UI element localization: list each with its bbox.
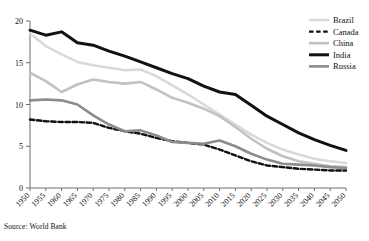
series-lines bbox=[30, 30, 346, 170]
legend-label-brazil: Brazil bbox=[333, 15, 354, 25]
legend-label-russia: Russia bbox=[333, 61, 356, 71]
x-tick-label: 2045 bbox=[314, 191, 332, 209]
legend-label-canada: Canada bbox=[333, 27, 359, 37]
source-note: Source: World Bank bbox=[4, 222, 67, 231]
legend-label-india: India bbox=[333, 50, 351, 60]
y-tick-label: 10 bbox=[15, 101, 23, 110]
chart-legend: BrazilCanadaChinaIndiaRussia bbox=[309, 15, 359, 71]
y-tick-label: 0 bbox=[19, 184, 23, 193]
x-tick-label: 1975 bbox=[93, 191, 111, 209]
x-tick-label: 2040 bbox=[298, 191, 316, 209]
x-tick-label: 2035 bbox=[282, 191, 300, 209]
y-axis: 05101520 bbox=[15, 17, 30, 193]
x-tick-label: 2030 bbox=[267, 191, 285, 209]
x-tick-label: 2015 bbox=[219, 191, 237, 209]
x-tick-label: 2050 bbox=[330, 191, 348, 209]
x-tick-label: 1950 bbox=[14, 191, 32, 209]
x-tick-label: 2000 bbox=[172, 191, 190, 209]
x-tick-label: 2025 bbox=[251, 191, 269, 209]
x-tick-label: 1970 bbox=[77, 191, 95, 209]
line-chart: 05101520 1950195519601965197019751980198… bbox=[0, 0, 369, 241]
x-tick-label: 1955 bbox=[30, 191, 48, 209]
legend-label-china: China bbox=[333, 38, 354, 48]
y-tick-label: 20 bbox=[15, 17, 23, 26]
y-tick-label: 5 bbox=[19, 142, 23, 151]
x-tick-label: 2010 bbox=[203, 191, 221, 209]
x-tick-label: 1965 bbox=[61, 191, 79, 209]
chart-figure: 05101520 1950195519601965197019751980198… bbox=[0, 0, 369, 241]
x-tick-label: 2020 bbox=[235, 191, 253, 209]
x-tick-label: 1980 bbox=[109, 191, 127, 209]
series-line-canada bbox=[30, 120, 346, 171]
x-tick-label: 1995 bbox=[156, 191, 174, 209]
x-tick-label: 1985 bbox=[124, 191, 142, 209]
x-tick-label: 1990 bbox=[140, 191, 158, 209]
series-line-china bbox=[30, 73, 346, 167]
x-axis: 1950195519601965197019751980198519901995… bbox=[14, 188, 348, 209]
x-tick-label: 1960 bbox=[45, 191, 63, 209]
y-tick-label: 15 bbox=[15, 59, 23, 68]
series-line-india bbox=[30, 30, 346, 150]
x-tick-label: 2005 bbox=[188, 191, 206, 209]
